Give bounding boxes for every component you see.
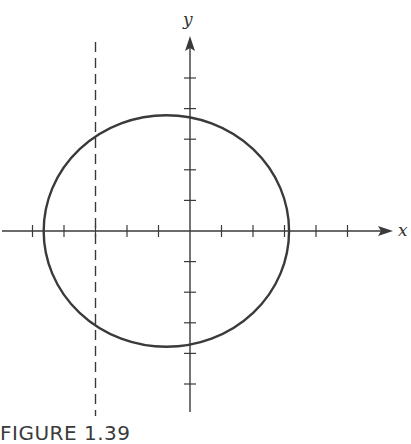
figure-caption: FIGURE 1.39: [0, 421, 130, 444]
shapes: [44, 42, 289, 416]
axes: [2, 36, 393, 412]
x-axis-label: x: [398, 220, 408, 240]
y-axis-label: y: [182, 9, 193, 29]
